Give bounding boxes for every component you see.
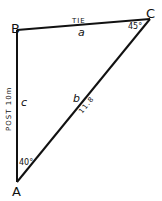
vertex-c-label: C [146, 6, 155, 21]
side-b-letter: b [73, 92, 80, 105]
side-a-letter: a [78, 26, 85, 39]
side-b-hypotenuse [17, 19, 150, 182]
side-c-letter: c [21, 96, 27, 109]
side-c-name: POST 10m [5, 87, 13, 131]
vertex-a-label: A [12, 184, 21, 199]
triangle-diagram: B C A TIE a POST 10m c b 11.8 45° 40° [0, 0, 162, 201]
vertex-b-label: B [11, 21, 20, 36]
angle-a-label: 40° [19, 158, 33, 167]
angle-c-label: 45° [128, 22, 142, 31]
side-a-name: TIE [71, 17, 86, 25]
